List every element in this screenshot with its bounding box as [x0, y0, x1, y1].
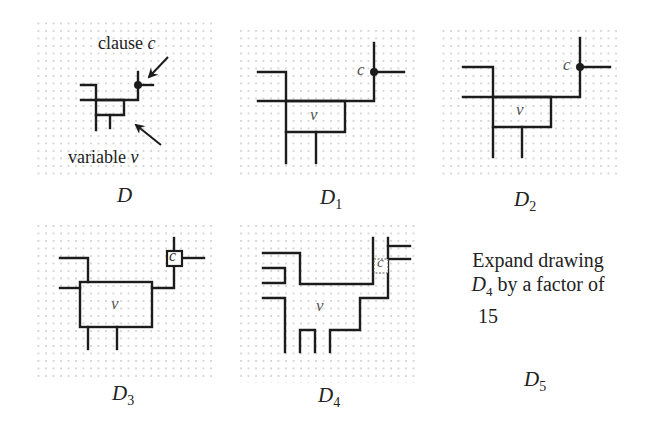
- grid-d4: [240, 220, 420, 383]
- caption-d5: D5: [524, 367, 546, 395]
- variable-text: variable: [68, 147, 130, 167]
- caption-d1: D1: [320, 185, 342, 213]
- caption-d4-text: D: [318, 383, 333, 407]
- caption-d1-sub: 1: [335, 197, 342, 212]
- expand-note-line2: D4 by a factor of: [448, 272, 628, 304]
- caption-d4: D4: [318, 383, 340, 411]
- clause-label-d2: c: [563, 55, 571, 75]
- clause-node-d1: [370, 68, 378, 76]
- variable-annotation: variable v: [68, 147, 138, 168]
- expand-note-line1: Expand drawing: [448, 248, 628, 272]
- caption-d3-sub: 3: [127, 393, 134, 408]
- clause-annotation: clause c: [98, 33, 155, 54]
- variable-label-d4: v: [316, 296, 324, 316]
- clause-label-d4: c: [377, 254, 384, 271]
- clause-label-d3: c: [169, 247, 176, 265]
- expand-note: Expand drawing D4 by a factor of 15: [448, 248, 628, 328]
- caption-d3: D3: [112, 381, 134, 409]
- expand-note-rest: by a factor of: [492, 273, 604, 295]
- expand-note-line3: 15: [448, 304, 628, 328]
- caption-d2: D2: [514, 187, 536, 215]
- caption-d-text: D: [117, 183, 132, 207]
- grid-d3: [35, 220, 213, 378]
- variable-label-d2: v: [516, 100, 524, 120]
- clause-var: c: [147, 33, 155, 53]
- variable-label-d1: v: [310, 105, 318, 125]
- caption-d2-text: D: [514, 187, 529, 211]
- caption-d3-text: D: [112, 381, 127, 405]
- diagram-canvas: [0, 0, 660, 432]
- caption-d4-sub: 4: [333, 395, 340, 410]
- clause-node-d: [134, 81, 142, 89]
- variable-label-d3: v: [111, 294, 119, 314]
- expand-note-var: D: [471, 273, 485, 295]
- caption-d5-text: D: [524, 367, 539, 391]
- caption-d5-sub: 5: [539, 379, 546, 394]
- variable-var: v: [130, 147, 138, 167]
- grid-d2: [440, 25, 620, 178]
- caption-d: D: [117, 183, 132, 208]
- clause-label-d1: c: [357, 60, 365, 80]
- caption-d2-sub: 2: [529, 199, 536, 214]
- caption-d1-text: D: [320, 185, 335, 209]
- clause-node-d2: [576, 63, 584, 71]
- clause-text: clause: [98, 33, 147, 53]
